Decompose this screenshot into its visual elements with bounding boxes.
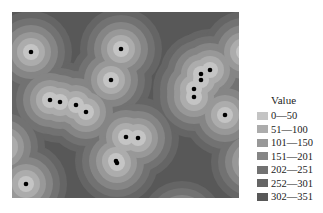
legend-label: 151—201 <box>271 151 313 162</box>
legend-swatch <box>257 112 268 120</box>
legend-item: 202—251 <box>257 163 313 177</box>
legend-item: 151—201 <box>257 150 313 164</box>
legend-item: 101—150 <box>257 136 313 150</box>
legend-label: 51—100 <box>271 124 308 135</box>
source-point <box>136 136 141 141</box>
legend-label: 302—351 <box>271 191 313 202</box>
source-point <box>199 72 204 77</box>
legend-label: 0—50 <box>271 110 297 121</box>
legend-swatch <box>257 125 268 133</box>
source-point <box>199 78 204 83</box>
legend-swatch <box>257 179 268 187</box>
legend-swatch <box>257 152 268 160</box>
legend-label: 252—301 <box>271 178 313 189</box>
source-point <box>29 50 34 55</box>
legend-swatch <box>257 166 268 174</box>
legend-label: 202—251 <box>271 164 313 175</box>
legend-item: 0—50 <box>257 109 313 123</box>
legend-swatch <box>257 139 268 147</box>
source-point <box>84 110 89 115</box>
source-point <box>109 78 114 83</box>
map-canvas <box>12 12 239 198</box>
source-point <box>24 182 29 187</box>
legend: Value 0—5051—100101—150151—201202—251252… <box>257 94 313 204</box>
legend-item: 51—100 <box>257 123 313 137</box>
source-point <box>192 95 197 100</box>
source-point <box>192 87 197 92</box>
source-point <box>119 47 124 52</box>
source-point <box>58 100 63 105</box>
distance-buffer-map <box>12 12 239 198</box>
source-point <box>124 135 129 140</box>
source-point <box>208 68 213 73</box>
source-point <box>74 103 79 108</box>
legend-item: 302—351 <box>257 190 313 204</box>
source-point <box>115 161 120 166</box>
legend-title: Value <box>271 94 313 106</box>
source-point <box>223 113 228 118</box>
legend-label: 101—150 <box>271 137 313 148</box>
source-point <box>48 98 53 103</box>
legend-swatch <box>257 193 268 201</box>
legend-item: 252—301 <box>257 177 313 191</box>
